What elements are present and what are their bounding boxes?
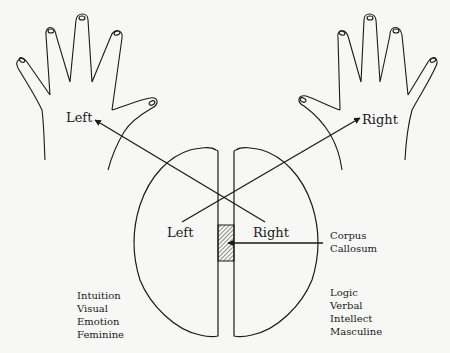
corpus-label-line1: Corpus <box>330 230 366 241</box>
crossing-arrows <box>95 118 360 243</box>
right-trait: Logic <box>330 287 358 298</box>
right-trait: Intellect <box>330 313 372 324</box>
arrow-to-right-hand <box>182 118 360 222</box>
left-hand-icon <box>17 14 157 170</box>
corpus-label-line2: Callosum <box>330 243 378 254</box>
left-trait: Emotion <box>77 316 120 327</box>
right-hand-label: Right <box>362 112 399 127</box>
brain-icon <box>134 148 318 337</box>
brain-left-label: Left <box>167 225 194 240</box>
right-hand-icon <box>299 14 437 170</box>
brain-right-label: Right <box>253 225 290 240</box>
arrow-to-left-hand <box>95 120 265 222</box>
right-traits-list: Logic Verbal Intellect Masculine <box>329 287 382 337</box>
brain-hand-diagram: Left Right Left Right Corpus Callosum In… <box>0 0 450 353</box>
left-trait: Feminine <box>77 329 124 340</box>
left-hand-label: Left <box>66 110 93 125</box>
left-hemisphere <box>134 148 218 337</box>
left-trait: Intuition <box>77 290 121 301</box>
right-trait: Verbal <box>329 300 363 311</box>
right-trait: Masculine <box>330 326 382 337</box>
left-trait: Visual <box>76 303 108 314</box>
right-hemisphere <box>234 148 318 337</box>
left-traits-list: Intuition Visual Emotion Feminine <box>76 290 124 340</box>
